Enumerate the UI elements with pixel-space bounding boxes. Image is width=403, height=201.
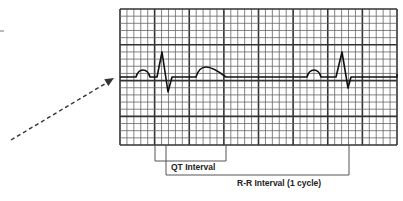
dashed-pointer-arrow-icon xyxy=(11,78,114,140)
qt-interval-label: QT Interval xyxy=(171,162,215,172)
rr-interval-label: R-R Interval (1 cycle) xyxy=(237,178,321,188)
